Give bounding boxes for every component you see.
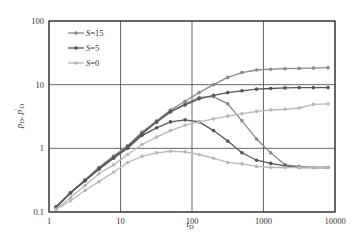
data-point — [312, 166, 316, 170]
data-point — [212, 156, 216, 160]
data-point — [112, 156, 116, 160]
legend-label: S=5 — [86, 43, 99, 53]
data-point — [269, 108, 273, 112]
data-point — [126, 147, 130, 151]
data-point — [226, 114, 230, 118]
data-point — [169, 120, 173, 124]
data-point — [269, 166, 273, 170]
data-point — [240, 71, 244, 75]
data-point — [54, 208, 58, 212]
legend-label: S=0 — [86, 58, 99, 68]
data-point — [283, 86, 287, 90]
y-tick-label: 100 — [31, 16, 44, 26]
data-point — [297, 166, 301, 170]
data-point — [240, 119, 244, 123]
data-point — [269, 87, 273, 91]
data-point — [269, 162, 273, 166]
data-point — [212, 83, 216, 87]
data-point — [126, 161, 130, 165]
data-point — [226, 139, 230, 143]
data-point — [169, 129, 173, 133]
data-point — [183, 118, 187, 122]
data-point — [183, 103, 187, 107]
data-point — [197, 97, 201, 101]
data-point — [226, 91, 230, 95]
data-point — [97, 167, 101, 171]
y-axis-ticks: 0.1110100 — [31, 16, 44, 217]
data-point — [155, 135, 159, 139]
data-point — [240, 89, 244, 93]
data-point — [69, 199, 73, 203]
legend-item: S=5 — [68, 43, 99, 53]
data-point — [197, 91, 201, 95]
data-point — [312, 66, 316, 70]
data-point — [269, 151, 273, 155]
data-point — [212, 129, 216, 133]
data-point — [155, 126, 159, 130]
data-point — [140, 154, 144, 158]
data-point — [83, 179, 87, 183]
data-point — [155, 120, 159, 124]
y-tick-label: 10 — [36, 80, 45, 90]
data-point — [240, 151, 244, 155]
data-point — [297, 86, 301, 90]
data-point — [140, 143, 144, 147]
y-tick-label: 0.1 — [33, 207, 44, 217]
data-point — [283, 67, 287, 71]
chart: 110100100010000 0.1110100 tD pD, p′D S=1… — [0, 0, 358, 251]
legend-label: S=15 — [86, 28, 104, 38]
data-point — [197, 120, 201, 124]
data-point — [140, 134, 144, 138]
data-point — [155, 151, 159, 155]
data-point — [255, 137, 259, 141]
data-point — [255, 110, 259, 114]
data-point — [83, 184, 87, 188]
data-point — [83, 188, 87, 192]
data-point — [197, 153, 201, 157]
data-point — [255, 158, 259, 162]
data-point — [226, 102, 230, 106]
data-point — [169, 110, 173, 114]
data-point — [240, 162, 244, 166]
data-point — [255, 87, 259, 91]
y-axis-label: pD, p′D — [13, 104, 25, 130]
legend-item: S=15 — [68, 28, 104, 38]
data-point — [297, 106, 301, 110]
data-point — [255, 165, 259, 169]
y-tick-label: 1 — [40, 143, 44, 153]
data-point — [226, 161, 230, 165]
x-tick-label: 1 — [47, 216, 51, 226]
data-point — [312, 103, 316, 107]
data-point — [283, 166, 287, 170]
x-tick-label: 1000 — [255, 216, 272, 226]
data-point — [297, 67, 301, 71]
data-point — [183, 124, 187, 128]
data-point — [112, 163, 116, 167]
legend: S=15S=5S=0 — [68, 28, 104, 68]
data-point — [283, 108, 287, 112]
x-tick-label: 10000 — [324, 216, 345, 226]
data-point — [69, 196, 73, 200]
data-point — [97, 180, 101, 184]
data-point — [169, 149, 173, 153]
data-point — [212, 94, 216, 98]
data-point — [112, 171, 116, 175]
data-point — [226, 76, 230, 80]
data-point — [326, 166, 330, 170]
data-point — [326, 86, 330, 90]
data-point — [212, 117, 216, 121]
x-axis-ticks: 110100100010000 — [47, 216, 346, 226]
data-point — [312, 86, 316, 90]
x-tick-label: 10 — [116, 216, 125, 226]
data-point — [255, 68, 259, 72]
data-point — [126, 153, 130, 157]
data-point — [326, 102, 330, 106]
data-point — [326, 66, 330, 70]
data-point — [97, 172, 101, 176]
data-point — [69, 191, 73, 195]
data-point — [240, 112, 244, 116]
legend-item: S=0 — [68, 58, 99, 68]
data-point — [269, 67, 273, 71]
data-point — [183, 150, 187, 154]
